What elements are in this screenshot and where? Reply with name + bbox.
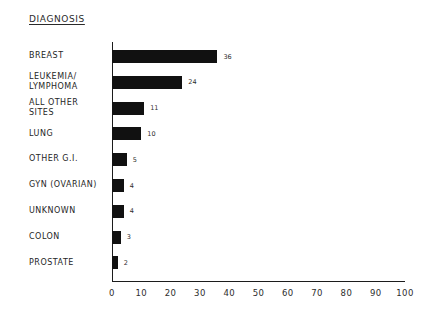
- x-tick-0: 0: [109, 288, 115, 298]
- x-tick-50: 50: [253, 288, 265, 298]
- bar-leukemia-lymphoma[interactable]: [112, 76, 182, 89]
- category-label-1: LEUKEMIA/ LYMPHOMA: [29, 72, 78, 91]
- page-title: DIAGNOSIS: [29, 14, 85, 24]
- x-tick-10: 10: [135, 288, 147, 298]
- bar-all-other-sites[interactable]: [112, 102, 144, 115]
- x-tick-70: 70: [311, 288, 323, 298]
- x-axis-line: [112, 281, 405, 282]
- bar-value-label: 2: [124, 259, 128, 267]
- x-tick-80: 80: [341, 288, 353, 298]
- category-label-0: BREAST: [29, 51, 64, 61]
- category-label-4: OTHER G.I.: [29, 154, 78, 164]
- plot-area: 3624111054432: [112, 42, 405, 282]
- category-label-8: PROSTATE: [29, 258, 74, 268]
- bar-breast[interactable]: [112, 50, 217, 63]
- bar-unknown[interactable]: [112, 205, 124, 218]
- x-tick-60: 60: [282, 288, 294, 298]
- bar-other-g-i[interactable]: [112, 153, 127, 166]
- bar-value-label: 11: [150, 104, 158, 112]
- category-label-2: ALL OTHER SITES: [29, 98, 78, 117]
- bar-value-label: 24: [188, 78, 196, 86]
- x-tick-30: 30: [194, 288, 206, 298]
- bar-value-label: 5: [133, 156, 137, 164]
- category-label-6: UNKNOWN: [29, 206, 76, 216]
- x-tick-100: 100: [396, 288, 413, 298]
- bar-value-label: 4: [130, 207, 134, 215]
- bar-prostate[interactable]: [112, 256, 118, 269]
- bar-value-label: 3: [127, 233, 131, 241]
- x-tick-90: 90: [370, 288, 382, 298]
- x-tick-20: 20: [165, 288, 177, 298]
- bar-gyn-ovarian[interactable]: [112, 179, 124, 192]
- category-label-5: GYN (OVARIAN): [29, 180, 97, 190]
- bar-value-label: 10: [147, 130, 155, 138]
- chart-page: DIAGNOSIS 3624111054432 BREASTLEUKEMIA/ …: [0, 0, 427, 322]
- bar-value-label: 4: [130, 182, 134, 190]
- x-tick-40: 40: [223, 288, 235, 298]
- bar-colon[interactable]: [112, 231, 121, 244]
- bar-lung[interactable]: [112, 127, 141, 140]
- bar-value-label: 36: [223, 53, 231, 61]
- category-label-3: LUNG: [29, 129, 53, 139]
- category-label-7: COLON: [29, 232, 60, 242]
